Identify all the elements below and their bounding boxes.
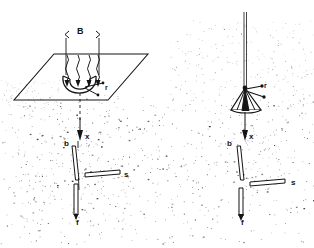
label-s-left: s	[124, 171, 128, 179]
figure-canvas: B r x b s f r x b s f	[0, 0, 314, 248]
right-element-b-bar	[237, 146, 244, 180]
x-arrowhead	[77, 130, 83, 141]
diagram-vector-art	[0, 0, 314, 248]
label-f-right: f	[241, 219, 244, 227]
cone-apex-node	[243, 86, 248, 91]
shaft-below-b	[79, 178, 80, 190]
label-b-right: b	[227, 140, 232, 148]
label-x-right: x	[249, 133, 253, 141]
cone-body-group	[231, 86, 261, 113]
label-b-field-dimension: B	[77, 27, 84, 36]
right-bar-s	[250, 179, 285, 186]
label-s-right: s	[291, 179, 295, 187]
label-r-right: r	[264, 82, 267, 89]
field-arrowhead-2	[76, 80, 81, 87]
field-line-3	[88, 55, 91, 81]
right-stem-f	[239, 188, 243, 216]
label-r-left: r	[105, 84, 108, 91]
label-f-left: f	[76, 219, 79, 227]
label-b-left: b	[64, 140, 69, 148]
stem-f	[74, 184, 78, 215]
right-x-arrowhead	[242, 130, 248, 141]
left-panel-art	[14, 31, 148, 220]
b-arrowcap-right	[96, 31, 100, 38]
bar-s	[85, 170, 120, 177]
ground-speckle-texture	[1, 20, 314, 244]
label-x-left: x	[85, 133, 89, 141]
field-line-2	[77, 55, 80, 81]
right-r-leader-1	[246, 86, 262, 89]
b-dimension-group	[65, 31, 100, 75]
b-arrowcap-left	[65, 31, 69, 38]
